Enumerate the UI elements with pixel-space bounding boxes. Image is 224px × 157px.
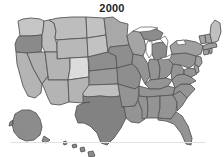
state-OK[interactable] [83,84,120,97]
lake-ontario-icon [176,40,186,45]
state-AZ[interactable] [42,76,69,105]
map-baseline-rule [10,142,206,143]
state-HI[interactable] [63,141,95,157]
state-TX[interactable] [75,96,126,145]
state-CO[interactable] [68,57,89,80]
state-AL[interactable] [147,96,160,118]
state-WA[interactable] [18,18,44,36]
state-OR[interactable] [15,35,42,53]
state-shapes [9,17,221,157]
lake-michigan-icon [146,41,152,58]
us-choropleth-map [0,14,224,157]
state-MA[interactable] [203,43,217,50]
state-NJ[interactable] [195,56,202,67]
state-WY[interactable] [57,38,88,59]
state-ND[interactable] [86,17,106,38]
state-ME[interactable] [210,20,221,43]
state-NY[interactable] [170,40,203,56]
state-AK[interactable] [9,110,50,143]
state-KS[interactable] [89,68,118,85]
map-figure: 2000 [0,0,224,157]
